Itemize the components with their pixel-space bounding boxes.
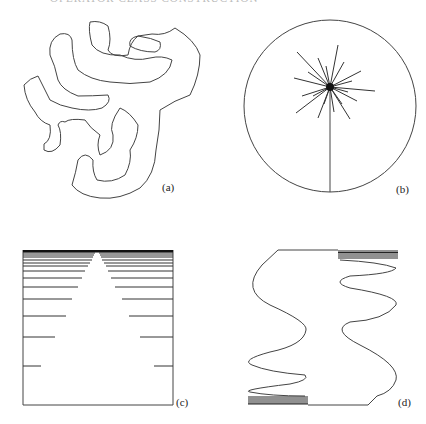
panel-d-bottom-diagonal bbox=[368, 396, 377, 405]
panel-a: (a) bbox=[24, 22, 200, 199]
panel-d-left-curve bbox=[248, 250, 338, 396]
panel-c: (c) bbox=[23, 250, 189, 409]
panel-d-right-curve bbox=[340, 260, 396, 396]
panel-d: (d) bbox=[248, 250, 411, 409]
figure-canvas: (a) (b) bbox=[0, 0, 426, 424]
panel-b-star bbox=[294, 45, 375, 119]
panel-c-label: (c) bbox=[176, 396, 189, 409]
panel-d-right-bundle bbox=[338, 251, 398, 258]
panel-b: (b) bbox=[244, 20, 416, 196]
panel-c-box bbox=[23, 250, 173, 405]
panel-b-label: (b) bbox=[396, 183, 409, 196]
panel-a-label: (a) bbox=[162, 181, 175, 194]
panel-a-contour bbox=[24, 22, 200, 199]
panel-d-left-bundle bbox=[248, 397, 308, 404]
panel-c-lines bbox=[23, 250, 173, 366]
panel-d-label: (d) bbox=[398, 396, 411, 409]
